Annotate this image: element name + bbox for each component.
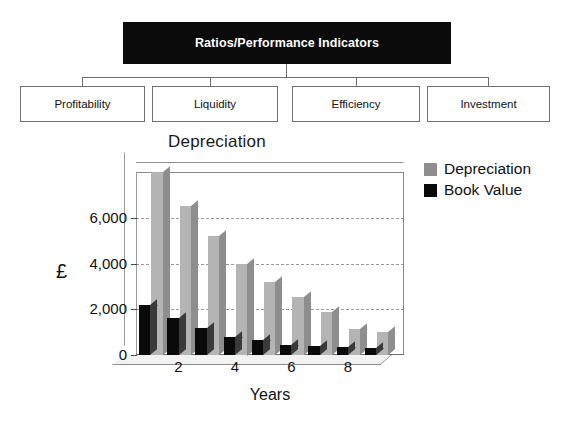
bar-front-face	[252, 340, 263, 355]
bar-book-value	[139, 305, 150, 355]
y-axis-tick	[131, 218, 137, 219]
x-axis-tick-label: 8	[344, 358, 352, 375]
root-node-label: Ratios/Performance Indicators	[195, 36, 379, 50]
gridline	[136, 264, 404, 265]
hierarchy-diagram: Ratios/Performance Indicators Profitabil…	[0, 0, 570, 130]
gridline	[136, 218, 404, 219]
bar-side-face	[388, 326, 395, 355]
node-profitability-label: Profitability	[54, 98, 110, 110]
connector-drop-investment	[488, 77, 489, 86]
x-axis-title: Years	[136, 386, 404, 404]
bar-front-face	[280, 345, 291, 355]
y-axis-tick	[131, 355, 137, 356]
x-axis-tick-label: 6	[287, 358, 295, 375]
bar-front-face	[337, 347, 348, 355]
x-axis-tick-label: 2	[174, 358, 182, 375]
bar-front-face	[365, 348, 376, 355]
bar-front-face	[308, 346, 319, 355]
legend-swatch	[424, 163, 437, 176]
bar-side-face	[207, 322, 214, 355]
bar-book-value	[337, 347, 348, 355]
bar-book-value	[252, 340, 263, 355]
bar-book-value	[365, 348, 376, 355]
node-liquidity[interactable]: Liquidity	[152, 86, 278, 122]
bar-book-value	[308, 346, 319, 355]
bar-front-face	[167, 318, 178, 355]
node-efficiency-label: Efficiency	[331, 98, 380, 110]
bar-book-value	[167, 318, 178, 355]
bar-side-face	[179, 313, 186, 355]
node-liquidity-label: Liquidity	[194, 98, 236, 110]
x-axis-tick-label: 4	[231, 358, 239, 375]
legend-label: Book Value	[444, 181, 522, 199]
legend-item[interactable]: Book Value	[424, 181, 531, 199]
chart-title: Depreciation	[168, 132, 266, 152]
node-investment-label: Investment	[460, 98, 516, 110]
bar-front-face	[224, 337, 235, 355]
connector-drop-liquidity	[210, 77, 211, 86]
bar-book-value	[280, 345, 291, 355]
y-axis-tick-label: 4,000	[89, 255, 127, 272]
bar-side-face	[150, 299, 157, 355]
connector-horizontal-bus	[82, 77, 488, 78]
bar-book-value	[195, 328, 206, 355]
chart-legend: DepreciationBook Value	[424, 160, 531, 202]
bar-side-face	[275, 276, 282, 355]
root-node-ratios-performance-indicators[interactable]: Ratios/Performance Indicators	[123, 22, 451, 64]
bar-front-face	[195, 328, 206, 355]
node-profitability[interactable]: Profitability	[20, 86, 145, 122]
connector-root-stem	[286, 64, 287, 77]
y-axis-tick	[131, 309, 137, 310]
node-efficiency[interactable]: Efficiency	[292, 86, 420, 122]
y-axis-unit-label: £	[56, 260, 67, 283]
y-axis-tick-label: 6,000	[89, 209, 127, 226]
bar-front-face	[139, 305, 150, 355]
plot-left-wall-depth	[124, 152, 136, 355]
legend-swatch	[424, 184, 437, 197]
y-axis-tick-label: 2,000	[89, 300, 127, 317]
plot-area: 02,0004,0006,000 2468 Years	[136, 172, 404, 355]
bar-book-value	[224, 337, 235, 355]
node-investment[interactable]: Investment	[427, 86, 550, 122]
connector-drop-profitability	[82, 77, 83, 86]
y-axis-tick-label: 0	[119, 346, 127, 363]
y-axis-tick	[131, 264, 137, 265]
plot-top-border	[136, 172, 404, 173]
depreciation-chart: Depreciation £ 02,0004,0006,000 2468 Yea…	[0, 128, 570, 433]
legend-item[interactable]: Depreciation	[424, 160, 531, 178]
connector-drop-efficiency	[356, 77, 357, 86]
legend-label: Depreciation	[444, 160, 531, 178]
